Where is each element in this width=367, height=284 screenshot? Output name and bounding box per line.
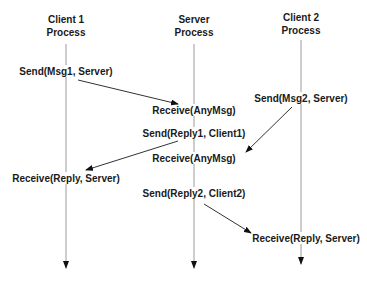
event-server-receive-2: Receive(AnyMsg)	[152, 153, 235, 164]
event-send-msg1: Send(Msg1, Server)	[19, 66, 112, 77]
event-server-receive-1: Receive(AnyMsg)	[152, 105, 235, 116]
client1-header-line2: Process	[47, 27, 86, 38]
event-send-msg2: Send(Msg2, Server)	[254, 93, 347, 104]
server-header-line2: Process	[175, 27, 214, 38]
server-header-line1: Server	[178, 14, 209, 25]
event-send-reply1: Send(Reply1, Client1)	[143, 128, 246, 139]
client1-header-line1: Client 1	[48, 14, 85, 25]
message-arrow-reply2	[204, 204, 251, 233]
sequence-diagram: Client 1 Process Server Process Client 2…	[0, 0, 367, 284]
client2-header-line2: Process	[282, 25, 321, 36]
event-send-reply2: Send(Reply2, Client2)	[143, 188, 246, 199]
message-arrow-msg1	[78, 80, 178, 104]
client2-header-line1: Client 2	[283, 12, 320, 23]
event-client1-receive-reply: Receive(Reply, Server)	[12, 173, 120, 184]
event-client2-receive-reply: Receive(Reply, Server)	[252, 233, 360, 244]
